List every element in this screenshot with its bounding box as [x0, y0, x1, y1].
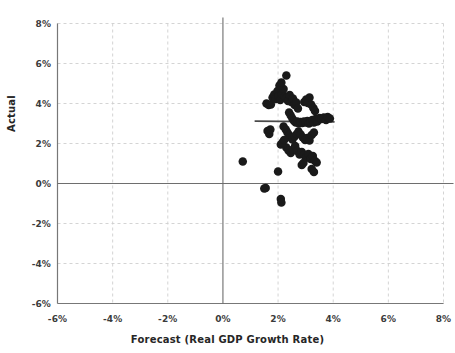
scatter-point: [274, 167, 283, 176]
scatter-point: [299, 159, 308, 168]
y-tick-label: 0%: [18, 179, 51, 189]
scatter-point: [239, 157, 248, 166]
x-tick-label: 0%: [215, 314, 230, 324]
x-tick-label: -4%: [103, 314, 122, 324]
scatter-point: [310, 168, 319, 177]
y-tick-label: -4%: [18, 259, 51, 269]
scatter-point: [266, 125, 275, 134]
zero-reference-lines: [58, 18, 454, 304]
y-tick-label: 6%: [18, 59, 51, 69]
scatter-point: [277, 78, 286, 87]
scatter-point: [310, 128, 319, 137]
x-axis-title: Forecast (Real GDP Growth Rate): [0, 334, 455, 345]
y-tick-label: -6%: [18, 299, 51, 309]
y-tick-label: 8%: [18, 19, 51, 29]
axis-spines: [58, 24, 444, 304]
gridlines: [58, 24, 444, 304]
x-tick-label: -6%: [48, 314, 67, 324]
y-tick-label: 4%: [18, 99, 51, 109]
scatter-point: [280, 136, 289, 145]
scatter-point: [294, 104, 303, 113]
scatter-point: [261, 184, 270, 193]
plot-canvas: [0, 0, 455, 353]
scatter-points: [239, 71, 335, 207]
scatter-point: [326, 114, 335, 123]
scatter-point: [282, 71, 291, 80]
y-tick-label: -2%: [18, 219, 51, 229]
x-tick-label: 2%: [270, 314, 285, 324]
y-tick-label: 2%: [18, 139, 51, 149]
x-tick-label: 4%: [325, 314, 340, 324]
x-tick-label: 8%: [436, 314, 451, 324]
scatter-point: [277, 198, 286, 207]
y-axis-title: Actual: [6, 95, 17, 132]
x-tick-label: -2%: [158, 314, 177, 324]
scatter-point: [311, 107, 320, 116]
x-tick-label: 6%: [381, 314, 396, 324]
scatter-chart-figure: 8%6%4%2%0%-2%-4%-6% -6%-4%-2%0%2%4%6%8% …: [0, 0, 455, 353]
